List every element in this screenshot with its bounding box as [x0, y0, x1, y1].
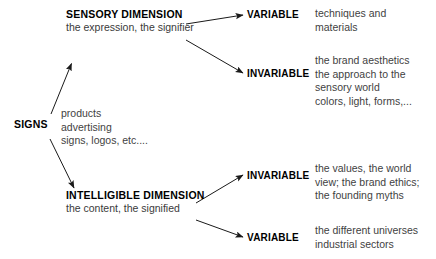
branch-intelligible: INTELLIGIBLE DIMENSION the content, the … [66, 189, 205, 215]
leaf-term-intelligible-variable: VARIABLE [247, 231, 299, 244]
leaf-desc-intelligible-variable: the different universes industrial secto… [315, 224, 418, 251]
arrow-intelligible-to-variable [196, 220, 243, 237]
leaf-desc-intelligible-invariable: the values, the world view; the brand et… [315, 162, 419, 203]
branch-sensory: SENSORY DIMENSION the expression, the si… [66, 8, 194, 34]
branch-sensory-heading: SENSORY DIMENSION [66, 8, 194, 21]
branch-intelligible-heading: INTELLIGIBLE DIMENSION [66, 189, 205, 202]
root-label: SIGNS [14, 118, 48, 130]
leaf-term-sensory-variable: VARIABLE [247, 8, 299, 21]
root-node: SIGNS [14, 114, 48, 132]
leaf-desc-sensory-variable: techniques and materials [315, 7, 386, 34]
arrow-sensory-to-invariable [186, 40, 243, 73]
leaf-term-sensory-invariable: INVARIABLE [247, 67, 309, 80]
branch-sensory-subheading: the expression, the signifier [66, 21, 194, 34]
branch-intelligible-subheading: the content, the signified [66, 202, 205, 215]
arrow-sensory-to-variable [186, 15, 243, 24]
leaf-desc-sensory-invariable: the brand aesthetics the approach to the… [315, 54, 412, 108]
root-examples: products advertising signs, logos, etc..… [61, 107, 148, 148]
diagram-canvas: SIGNS products advertising signs, logos,… [0, 0, 436, 259]
leaf-term-intelligible-invariable: INVARIABLE [247, 169, 309, 182]
